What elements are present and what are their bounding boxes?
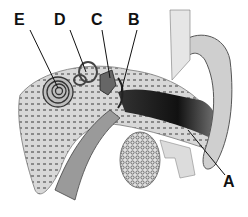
label-c: C <box>91 12 103 28</box>
ear-illustration <box>0 0 248 217</box>
label-d: D <box>54 12 66 28</box>
parotid-gland <box>120 132 160 188</box>
label-b: B <box>128 12 140 28</box>
label-a: A <box>223 174 235 190</box>
cochlea <box>43 77 73 107</box>
label-e: E <box>14 12 25 28</box>
ear-diagram: A B C D E <box>0 0 248 217</box>
